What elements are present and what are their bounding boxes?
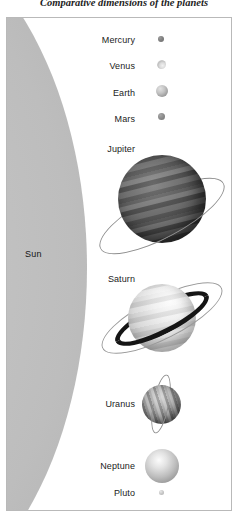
label-venus: Venus (15, 61, 135, 71)
label-mercury: Mercury (15, 35, 135, 45)
label-uranus: Uranus (15, 399, 135, 409)
planet-neptune (145, 449, 179, 483)
label-mars: Mars (15, 114, 135, 124)
planet-pluto (159, 490, 164, 495)
planet-mercury (158, 36, 164, 42)
sun-label: Sun (25, 249, 42, 259)
label-neptune: Neptune (15, 461, 135, 471)
label-earth: Earth (15, 88, 135, 98)
label-jupiter: Jupiter (15, 144, 135, 154)
planet-size-comparison-figure: Comparative dimensions of the planets Su… (0, 0, 248, 524)
label-saturn: Saturn (15, 274, 135, 284)
planet-mars (158, 113, 165, 120)
planet-earth (156, 85, 168, 97)
label-pluto: Pluto (15, 488, 135, 498)
planet-venus (157, 60, 166, 69)
figure-caption: Comparative dimensions of the planets (8, 0, 240, 9)
figure-plate: Sun Mercury Venus Earth Mars Jupiter Sat… (6, 17, 232, 511)
